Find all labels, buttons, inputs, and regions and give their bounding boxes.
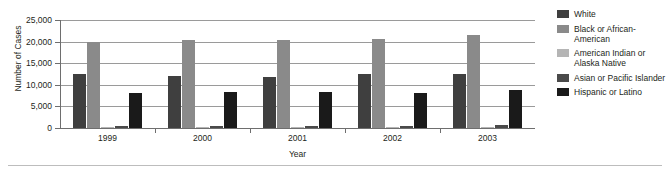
bar bbox=[386, 127, 399, 128]
bar bbox=[115, 126, 128, 128]
legend-swatch-icon bbox=[557, 88, 569, 96]
x-axis-label-1999: 1999 bbox=[60, 134, 155, 143]
y-axis-tick bbox=[55, 128, 61, 129]
bar-group-2001 bbox=[263, 20, 332, 128]
legend-swatch-icon bbox=[557, 25, 569, 33]
x-axis-label-2003: 2003 bbox=[440, 134, 535, 143]
x-axis-title: Year bbox=[60, 150, 535, 159]
legend-item-label: White bbox=[574, 9, 596, 19]
bar bbox=[400, 126, 413, 128]
legend-item[interactable]: Hispanic or Latino bbox=[557, 87, 667, 97]
bar-group-2002 bbox=[358, 20, 427, 128]
legend-item-label: American Indian or Alaska Native bbox=[574, 48, 667, 68]
x-axis-label-2002: 2002 bbox=[345, 134, 440, 143]
bar bbox=[509, 90, 522, 128]
x-axis-tick bbox=[250, 129, 251, 133]
gridline bbox=[60, 128, 535, 129]
bar bbox=[305, 126, 318, 128]
bar bbox=[453, 74, 466, 128]
bar bbox=[210, 126, 223, 128]
legend-swatch-icon bbox=[557, 49, 569, 57]
x-axis-tick bbox=[345, 129, 346, 133]
x-axis-tick bbox=[440, 129, 441, 133]
bar bbox=[481, 127, 494, 128]
x-axis-label-2001: 2001 bbox=[250, 134, 345, 143]
y-axis-tick bbox=[55, 63, 61, 64]
bottom-divider-rule bbox=[8, 165, 662, 166]
bar bbox=[495, 125, 508, 128]
y-axis-tick-label: 20,000 bbox=[4, 38, 52, 47]
bar bbox=[196, 127, 209, 128]
bar bbox=[224, 92, 237, 128]
bar bbox=[277, 40, 290, 128]
plot-area bbox=[60, 20, 535, 128]
bar bbox=[87, 42, 100, 128]
bar-group-2000 bbox=[168, 20, 237, 128]
chart-legend: WhiteBlack or African-AmericanAmerican I… bbox=[557, 9, 667, 102]
bar-group-1999 bbox=[73, 20, 142, 128]
bar bbox=[372, 39, 385, 128]
bar bbox=[263, 77, 276, 128]
legend-swatch-icon bbox=[557, 10, 569, 18]
y-axis-tick bbox=[55, 20, 61, 21]
legend-item[interactable]: Black or African-American bbox=[557, 24, 667, 44]
bar bbox=[101, 127, 114, 128]
legend-item-label: Hispanic or Latino bbox=[574, 87, 642, 97]
bar bbox=[73, 74, 86, 128]
legend-item-label: Asian or Pacific Islander bbox=[574, 73, 665, 83]
y-axis-tick-labels: 25,00020,00015,00010,0005,0000 bbox=[0, 0, 52, 173]
bar-group-2003 bbox=[453, 20, 522, 128]
legend-item[interactable]: White bbox=[557, 9, 667, 19]
bar bbox=[291, 127, 304, 128]
y-axis-tick-label: 0 bbox=[4, 124, 52, 133]
x-axis-label-2000: 2000 bbox=[155, 134, 250, 143]
legend-swatch-icon bbox=[557, 74, 569, 82]
bar-chart-figure: 25,00020,00015,00010,0005,0000 Number of… bbox=[0, 0, 670, 173]
bar bbox=[168, 76, 181, 128]
y-axis-tick-label: 5,000 bbox=[4, 102, 52, 111]
bar bbox=[467, 35, 480, 128]
y-axis-tick bbox=[55, 85, 61, 86]
y-axis-tick bbox=[55, 42, 61, 43]
bar bbox=[319, 92, 332, 128]
x-axis-tick bbox=[155, 129, 156, 133]
y-axis-tick-label: 10,000 bbox=[4, 81, 52, 90]
legend-item[interactable]: Asian or Pacific Islander bbox=[557, 73, 667, 83]
legend-item-label: Black or African-American bbox=[574, 24, 667, 44]
bar bbox=[358, 74, 371, 128]
bar bbox=[129, 93, 142, 128]
y-axis-tick-label: 25,000 bbox=[4, 16, 52, 25]
y-axis-tick-label: 15,000 bbox=[4, 59, 52, 68]
y-axis-tick bbox=[55, 106, 61, 107]
bar bbox=[182, 40, 195, 128]
legend-item[interactable]: American Indian or Alaska Native bbox=[557, 48, 667, 68]
y-axis-title: Number of Cases bbox=[14, 4, 23, 114]
bar bbox=[414, 93, 427, 128]
